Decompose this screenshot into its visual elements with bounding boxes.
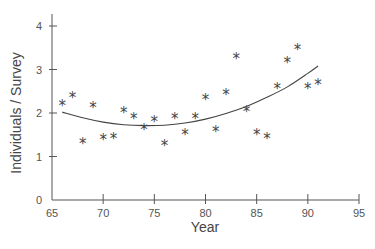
asterisk-marker-icon: * [140,121,148,139]
x-tick-label: 75 [148,207,160,219]
asterisk-marker-icon: * [69,89,77,107]
asterisk-marker-icon: * [58,97,66,115]
asterisk-marker-icon: * [171,110,179,128]
asterisk-marker-icon: * [181,126,189,144]
y-tick-label: 2 [36,107,42,119]
x-tick-label: 80 [199,207,211,219]
asterisk-marker-icon: * [89,99,97,117]
asterisk-marker-icon: * [232,50,240,68]
asterisk-marker-icon: * [263,130,271,148]
asterisk-marker-icon: * [192,110,200,128]
asterisk-marker-icon: * [161,137,169,155]
asterisk-marker-icon: * [243,103,251,121]
x-tick-label: 95 [353,207,365,219]
scatter-chart: 6570758085909501234 ********************… [0,0,375,249]
x-tick-label: 90 [302,207,314,219]
axes: 6570758085909501234 [36,14,365,219]
y-tick-label: 3 [36,64,42,76]
x-tick-label: 65 [46,207,58,219]
x-tick-label: 70 [97,207,109,219]
asterisk-marker-icon: * [212,123,220,141]
asterisk-marker-icon: * [110,130,118,148]
asterisk-marker-icon: * [294,41,302,59]
asterisk-marker-icon: * [273,80,281,98]
y-tick-label: 1 [36,151,42,163]
asterisk-marker-icon: * [130,110,138,128]
x-axis-title: Year [191,219,220,235]
y-axis-title: Individuals / Survey [8,52,24,173]
asterisk-marker-icon: * [79,135,87,153]
asterisk-marker-icon: * [314,76,322,94]
asterisk-marker-icon: * [151,113,159,131]
x-tick-label: 85 [251,207,263,219]
asterisk-marker-icon: * [222,86,230,104]
asterisk-marker-icon: * [202,91,210,109]
asterisk-marker-icon: * [284,54,292,72]
y-tick-label: 0 [36,194,42,206]
y-tick-label: 4 [36,20,42,32]
asterisk-marker-icon: * [304,80,312,98]
asterisk-marker-icon: * [253,126,261,144]
asterisk-marker-icon: * [120,104,128,122]
asterisk-marker-icon: * [99,131,107,149]
data-points: ************************** [58,41,322,155]
